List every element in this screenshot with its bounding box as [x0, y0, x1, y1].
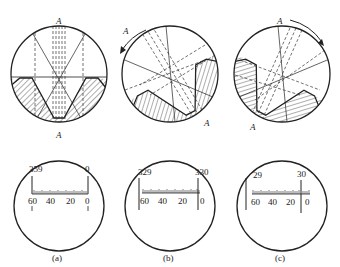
label-a-bottom: A	[55, 130, 62, 140]
scale-a-min-0: 0	[85, 196, 90, 206]
scale-b-minute-ticks	[143, 189, 199, 193]
panel-b-scale-view: 329 330 60 40 20 0 (b)	[125, 161, 215, 263]
panel-a-scale-view: 359 0 60 40 20 0 (a)	[14, 161, 104, 263]
caption-a: (a)	[52, 253, 62, 263]
scale-a-min-40: 40	[46, 196, 56, 206]
label-c-top: A	[276, 16, 283, 26]
label-c-bottom: A	[249, 122, 256, 132]
scale-c-min-0: 0	[305, 197, 310, 207]
caption-c: (c)	[275, 253, 285, 263]
scale-b-degree-right: 330	[195, 167, 209, 177]
label-a-top: A	[55, 16, 62, 26]
scale-b-min-40: 40	[158, 196, 168, 206]
scale-b-degree-left: 329	[138, 167, 152, 177]
scale-c-min-60: 60	[251, 197, 261, 207]
scale-b-min-0: 0	[200, 196, 205, 206]
scale-c-min-40: 40	[268, 197, 278, 207]
panel-c-scale-view: 29 30 60 40 20 0 (c)	[237, 161, 327, 263]
panel-b-thread-view: A A	[119, 26, 259, 169]
scale-a-degree-right: 0	[85, 164, 90, 174]
scale-c-degree-right: 30	[297, 169, 307, 179]
scale-a-min-20: 20	[66, 196, 76, 206]
scale-c-degree-left: 29	[253, 170, 263, 180]
scale-a-degree-left: 359	[29, 164, 43, 174]
label-b-bottom: A	[203, 118, 210, 128]
reading-field-a	[14, 161, 104, 251]
scale-a-min-60: 60	[28, 196, 38, 206]
scale-b-min-20: 20	[178, 196, 188, 206]
scale-c-min-20: 20	[286, 197, 296, 207]
panel-a-thread-view: A A	[0, 16, 110, 140]
rotation-arrow-cw-icon	[290, 20, 322, 42]
scale-a-minute-ticks	[34, 190, 86, 194]
caption-b: (b)	[163, 253, 174, 263]
thread-angle-measurement-diagram: A A A A	[0, 0, 340, 267]
label-b-top: A	[122, 26, 129, 36]
scale-b-min-60: 60	[140, 196, 150, 206]
